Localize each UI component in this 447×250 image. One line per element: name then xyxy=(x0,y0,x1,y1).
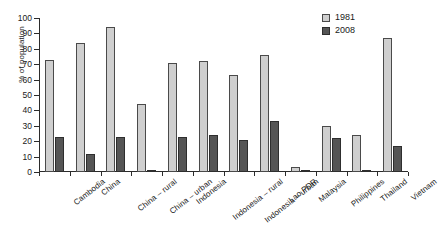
bar-1981 xyxy=(322,126,331,172)
x-axis-tick xyxy=(347,172,348,176)
x-axis-tick xyxy=(408,172,409,176)
y-axis-tick-label: 0 xyxy=(27,168,32,177)
y-axis-tick-label: 90 xyxy=(23,29,32,38)
bar-1981 xyxy=(352,135,361,172)
bar-1981 xyxy=(106,27,115,172)
y-axis-tick-label: 20 xyxy=(23,137,32,146)
bar-2008 xyxy=(209,135,218,172)
y-axis-tick-label: 80 xyxy=(23,45,32,54)
bar-1981 xyxy=(229,75,238,172)
bar-group xyxy=(347,18,378,172)
bar-2008 xyxy=(86,154,95,172)
bar-1981 xyxy=(137,104,146,172)
bar-1981 xyxy=(291,167,300,172)
bar-1981 xyxy=(168,63,177,172)
x-axis-tick xyxy=(254,172,255,176)
bar-group xyxy=(162,18,193,172)
x-axis-tick xyxy=(224,172,225,176)
legend-swatch-2008 xyxy=(322,27,330,35)
bar-group xyxy=(285,18,316,172)
x-axis-tick xyxy=(162,172,163,176)
bar-group xyxy=(70,18,101,172)
x-axis-tick xyxy=(193,172,194,176)
x-axis-label: Malaysia xyxy=(317,177,348,204)
bar-2008 xyxy=(239,140,248,172)
y-axis-tick-label: 30 xyxy=(23,122,32,131)
bar-2008 xyxy=(270,121,279,172)
legend-label-2008: 2008 xyxy=(335,26,355,35)
legend-swatch-1981 xyxy=(322,14,330,22)
y-axis-tick-label: 50 xyxy=(23,91,32,100)
bar-1981 xyxy=(76,43,85,172)
bar-group xyxy=(39,18,70,172)
bar-group xyxy=(193,18,224,172)
y-axis-tick-label: 10 xyxy=(23,152,32,161)
x-axis-tick xyxy=(285,172,286,176)
bar-group xyxy=(131,18,162,172)
legend-item-2008: 2008 xyxy=(322,26,355,35)
x-axis-tick xyxy=(377,172,378,176)
bar-group xyxy=(316,18,347,172)
x-axis-tick xyxy=(39,172,40,176)
y-axis-tick-label: 100 xyxy=(18,14,32,23)
bar-2008 xyxy=(116,137,125,172)
bar-group xyxy=(377,18,408,172)
x-axis-tick xyxy=(70,172,71,176)
x-axis-tick xyxy=(131,172,132,176)
bar-2008 xyxy=(301,170,310,172)
bar-2008 xyxy=(178,137,187,172)
x-axis-label: Vietnam xyxy=(409,177,438,203)
bar-1981 xyxy=(383,38,392,172)
legend-label-1981: 1981 xyxy=(335,13,355,22)
x-axis-label: Philippines xyxy=(350,177,387,209)
bar-2008 xyxy=(147,170,156,172)
bar-2008 xyxy=(55,137,64,172)
y-axis-tick-label: 60 xyxy=(23,75,32,84)
bar-1981 xyxy=(45,60,54,172)
bar-group xyxy=(254,18,285,172)
bar-2008 xyxy=(362,170,371,172)
x-axis-tick xyxy=(101,172,102,176)
y-axis-tick-label: 40 xyxy=(23,106,32,115)
bar-2008 xyxy=(393,146,402,172)
y-axis-tick-label: 70 xyxy=(23,60,32,69)
bar-chart: % of population 0102030405060708090100 1… xyxy=(0,0,447,250)
legend-item-1981: 1981 xyxy=(322,13,355,22)
bar-1981 xyxy=(199,61,208,172)
bar-1981 xyxy=(260,55,269,172)
chart-legend: 1981 2008 xyxy=(322,13,355,35)
x-axis-tick xyxy=(316,172,317,176)
bar-2008 xyxy=(332,138,341,172)
x-axis-label: Lao PDR xyxy=(287,177,319,205)
plot-area: 0102030405060708090100 xyxy=(39,18,408,172)
bar-group xyxy=(224,18,255,172)
bar-group xyxy=(101,18,132,172)
